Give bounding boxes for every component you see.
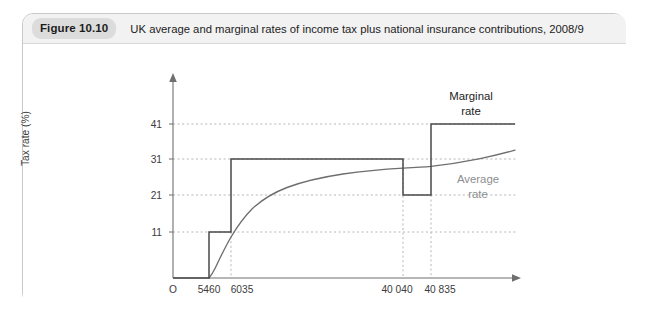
x-axis-arrowhead (512, 274, 521, 282)
figure-caption-bar: Figure 10.10 UK average and marginal rat… (23, 14, 626, 44)
y-tick-label-11: 11 (151, 227, 162, 238)
average-rate-label-line2: rate (468, 188, 488, 200)
marginal-rate-label-line2: rate (461, 105, 481, 117)
figure-panel: Figure 10.10 UK average and marginal rat… (22, 13, 625, 304)
average-rate-annotation: Average rate (457, 173, 499, 200)
chart-svg: 41 31 21 11 O 5460 6035 40 040 40 835 In… (23, 44, 626, 304)
marginal-rate-annotation: Marginal rate (449, 90, 493, 117)
marginal-rate-step-line (173, 124, 515, 278)
y-tick-label-41: 41 (151, 119, 163, 130)
y-tick-label-21: 21 (151, 190, 163, 201)
x-tick-label-40835: 40 835 (424, 284, 455, 295)
average-rate-label-line1: Average (457, 173, 499, 185)
y-tick-label-31: 31 (151, 154, 163, 165)
figure-root: Figure 10.10 UK average and marginal rat… (0, 0, 647, 329)
origin-label: O (169, 284, 177, 295)
marginal-rate-label-line1: Marginal (449, 90, 493, 102)
figure-number-badge: Figure 10.10 (32, 18, 116, 39)
y-tick-marks (169, 124, 173, 232)
y-axis-title: Tax rate (%) (20, 111, 31, 166)
y-axis-arrowhead (169, 73, 177, 82)
figure-caption-text: UK average and marginal rates of income … (130, 23, 583, 35)
x-tick-label-6035: 6035 (231, 284, 254, 295)
x-tick-label-40040: 40 040 (381, 284, 412, 295)
average-rate-curve (209, 150, 515, 278)
vertical-gridlines (231, 159, 431, 278)
x-tick-label-5460: 5460 (198, 284, 221, 295)
x-axis-title: Individual's pre-tax annual income (£) (261, 303, 430, 304)
chart-plot-area: Tax rate (%) (23, 44, 626, 304)
